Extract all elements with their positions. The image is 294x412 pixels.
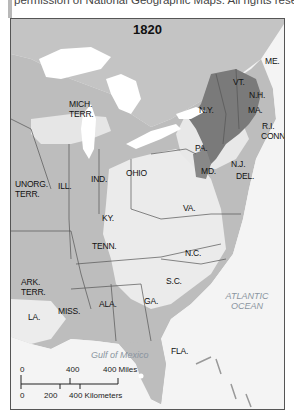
- label-sc: S.C.: [166, 276, 182, 286]
- caption-strip: permission of National Geographic Maps. …: [0, 0, 294, 18]
- label-ny: N.Y.: [199, 105, 214, 115]
- label-mich-terr: MICH.TERR.: [69, 99, 94, 119]
- label-pa: PA.: [195, 143, 207, 153]
- label-vt: VT.: [233, 77, 245, 87]
- label-del: DEL.: [236, 171, 254, 181]
- map-title: 1820: [11, 22, 284, 37]
- label-unorg-terr: UNORG.TERR.: [15, 179, 48, 199]
- lake-okeechobee: [139, 374, 144, 379]
- label-tenn: TENN.: [92, 241, 117, 251]
- label-ind: IND.: [91, 174, 107, 184]
- label-nj: N.J.: [231, 159, 245, 169]
- label-ark-terr: ARK.TERR.: [21, 277, 46, 297]
- label-fla: FLA.: [171, 346, 188, 356]
- caption-accent-bar: [8, 0, 12, 18]
- label-ma: MA.: [248, 105, 263, 115]
- label-conn: CONN.: [261, 131, 285, 141]
- label-nh: N.H.: [249, 90, 265, 100]
- label-gulf-of-mexico: Gulf of Mexico: [91, 350, 149, 360]
- label-nc: N.C.: [185, 248, 201, 258]
- label-la: LA.: [28, 312, 40, 322]
- label-md: MD.: [201, 166, 216, 176]
- label-ohio: OHIO: [126, 168, 147, 178]
- map-1820: 1820 MICH.TERR. UNORG.TERR. ARK.TERR. ME…: [10, 18, 285, 410]
- label-ri: R.I.: [262, 121, 274, 131]
- label-me: ME.: [265, 56, 280, 66]
- scale-bar-graphic: [20, 375, 120, 389]
- label-ala: ALA.: [99, 299, 117, 309]
- label-atlantic-ocean: ATLANTICOCEAN: [217, 291, 277, 311]
- label-va: VA.: [183, 203, 195, 213]
- label-ky: KY.: [102, 213, 114, 223]
- label-miss: MISS.: [58, 306, 80, 316]
- label-ill: ILL.: [58, 181, 71, 191]
- label-ga: GA.: [144, 296, 158, 306]
- caption-text: permission of National Geographic Maps. …: [14, 0, 294, 6]
